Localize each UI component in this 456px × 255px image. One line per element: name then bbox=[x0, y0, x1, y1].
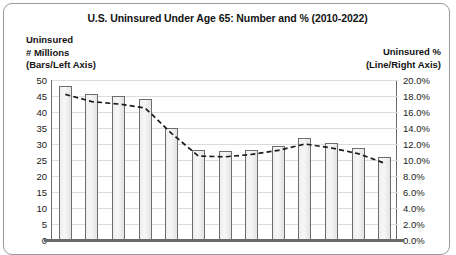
percent-line-series bbox=[52, 80, 398, 240]
left-axis-caption-line2: # Millions bbox=[26, 47, 96, 60]
right-axis-ticks: 20.0%18.0%16.0%14.0%12.0%10.0%8.0%6.0%4.… bbox=[403, 80, 450, 240]
right-axis-tick-label: 8.0% bbox=[403, 171, 425, 182]
right-axis-tick-label: 0.0% bbox=[403, 235, 425, 246]
right-axis-tick-label: 12.0% bbox=[403, 139, 430, 150]
left-axis-caption-line3: (Bars/Left Axis) bbox=[26, 59, 96, 72]
left-axis-tick-label: 15 bbox=[36, 187, 47, 198]
right-axis-tick-label: 4.0% bbox=[403, 203, 425, 214]
chart-frame: U.S. Uninsured Under Age 65: Number and … bbox=[3, 3, 450, 255]
right-axis-tick-label: 18.0% bbox=[403, 91, 430, 102]
chart-title: U.S. Uninsured Under Age 65: Number and … bbox=[4, 12, 450, 24]
right-axis-tick-label: 14.0% bbox=[403, 123, 430, 134]
right-axis-caption-line2: (Line/Right Axis) bbox=[366, 59, 441, 72]
right-axis-tick-label: 16.0% bbox=[403, 107, 430, 118]
right-axis-caption: Uninsured % (Line/Right Axis) bbox=[366, 46, 441, 71]
left-axis-tick-label: 5 bbox=[42, 219, 47, 230]
percent-dashed-polyline bbox=[65, 94, 384, 163]
left-axis-tick-label: 50 bbox=[36, 75, 47, 86]
right-axis-tick-label: 10.0% bbox=[403, 155, 430, 166]
left-axis-ticks: 50454035302520151050 bbox=[17, 80, 47, 240]
left-axis-tick-label: 35 bbox=[36, 123, 47, 134]
left-axis-tick-label: 40 bbox=[36, 107, 47, 118]
right-axis-tick-label: 2.0% bbox=[403, 219, 425, 230]
left-axis-caption-line1: Uninsured bbox=[26, 34, 96, 47]
x-axis-baseline bbox=[44, 239, 404, 242]
left-axis-caption: Uninsured # Millions (Bars/Left Axis) bbox=[26, 34, 96, 72]
right-axis-tick-label: 20.0% bbox=[403, 75, 430, 86]
right-axis-caption-line1: Uninsured % bbox=[366, 46, 441, 59]
left-axis-tick-label: 20 bbox=[36, 171, 47, 182]
plot-area bbox=[51, 80, 397, 240]
left-axis-tick-label: 30 bbox=[36, 139, 47, 150]
left-axis-tick-label: 10 bbox=[36, 203, 47, 214]
left-axis-tick-label: 25 bbox=[36, 155, 47, 166]
left-axis-tick-label: 45 bbox=[36, 91, 47, 102]
right-axis-tick-label: 6.0% bbox=[403, 187, 425, 198]
